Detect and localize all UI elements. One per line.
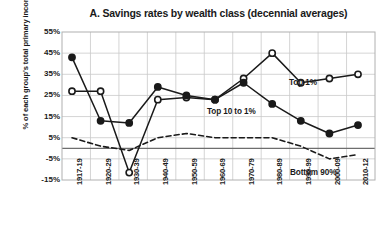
series-label-top-10-to-1: Top 10 to 1% (207, 107, 256, 116)
data-point-marker (326, 130, 332, 136)
data-point-marker (155, 84, 161, 90)
series-label-bottom-90: Bottom 90% (290, 168, 336, 177)
savings-rates-chart: A. Savings rates by wealth class (decenn… (0, 0, 392, 232)
data-point-marker (212, 97, 218, 103)
data-point-marker (355, 122, 361, 128)
data-point-marker (69, 54, 75, 60)
data-point-marker (326, 75, 332, 81)
x-axis-tick-label: 1970-79 (247, 159, 256, 185)
data-point-marker (269, 101, 275, 107)
data-point-marker (98, 88, 104, 94)
x-axis-tick-label: 1980-89 (275, 159, 284, 185)
x-axis-tick-label: 1917-19 (75, 159, 84, 185)
x-axis-tick-label: 2010-12 (361, 159, 370, 185)
series-line (72, 133, 358, 158)
x-axis-tick-label: 1950-59 (190, 159, 199, 185)
data-point-marker (126, 120, 132, 126)
data-point-marker (298, 118, 304, 124)
series-label-top-1: Top 1% (289, 78, 317, 87)
data-point-marker (241, 80, 247, 86)
x-axis-tick-label: 1930-39 (132, 159, 141, 185)
data-point-marker (355, 71, 361, 77)
data-point-marker (155, 97, 161, 103)
data-point-marker (269, 50, 275, 56)
data-point-marker (98, 118, 104, 124)
x-axis-tick-label: 1920-29 (104, 159, 113, 185)
x-axis-tick-label: 1940-49 (161, 159, 170, 185)
data-point-marker (69, 88, 75, 94)
data-point-marker (183, 92, 189, 98)
plot-area (0, 0, 392, 232)
x-axis-tick-label: 1960-69 (218, 159, 227, 185)
